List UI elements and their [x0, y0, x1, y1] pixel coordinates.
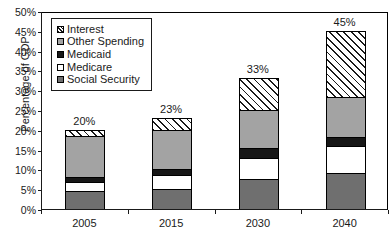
- y-axis-tick-mark: [38, 71, 42, 72]
- bar-group: [239, 13, 279, 209]
- x-axis-tick-mark: [128, 210, 129, 214]
- x-axis-tick-mark: [215, 210, 216, 214]
- legend-item-label: Medicaid: [67, 49, 111, 60]
- bar-segment: [65, 182, 105, 191]
- legend-item[interactable]: Other Spending: [57, 36, 144, 49]
- stacked-bar-chart: Percentage of GDP 0%5%10%15%20%25%30%35%…: [0, 0, 391, 237]
- bar-segment: [239, 148, 279, 157]
- legend-swatch-icon: [57, 76, 64, 83]
- x-axis-category-label: 2015: [131, 217, 211, 230]
- y-axis-tick-mark: [38, 91, 42, 92]
- stacked-bar[interactable]: [326, 31, 366, 209]
- x-axis-tick-mark: [388, 210, 389, 214]
- bar-data-label: 20%: [48, 115, 120, 127]
- y-axis-tick-labels: 0%5%10%15%20%25%30%35%40%45%50%: [0, 0, 36, 237]
- legend-item[interactable]: Interest: [57, 23, 144, 36]
- x-axis-tick-mark: [301, 210, 302, 214]
- y-axis-tick-label: 5%: [2, 185, 36, 195]
- legend-item-label: Other Spending: [67, 36, 144, 47]
- bar-segment: [239, 179, 279, 209]
- legend-swatch-icon: [57, 38, 64, 45]
- bar-segment: [152, 130, 192, 170]
- y-axis-tick-mark: [38, 12, 42, 13]
- y-axis-tick-label: 10%: [2, 165, 36, 175]
- legend-item-label: Interest: [67, 24, 104, 35]
- y-axis-tick-label: 0%: [2, 205, 36, 215]
- y-axis-tick-mark: [38, 111, 42, 112]
- bar-segment: [65, 191, 105, 209]
- legend-item-label: Medicare: [67, 62, 112, 73]
- x-axis-tick-mark: [41, 210, 42, 214]
- bar-data-label: 23%: [135, 103, 207, 115]
- y-axis-tick-mark: [38, 151, 42, 152]
- y-axis-tick-label: 20%: [2, 126, 36, 136]
- legend-item[interactable]: Social Security: [57, 73, 144, 86]
- bar-segment: [326, 137, 366, 146]
- y-axis-tick-label: 40%: [2, 47, 36, 57]
- bar-segment: [239, 110, 279, 148]
- bar-segment: [65, 136, 105, 177]
- y-axis-tick-mark: [38, 170, 42, 171]
- y-axis-tick-mark: [38, 32, 42, 33]
- y-axis-tick-label: 25%: [2, 106, 36, 116]
- legend-item[interactable]: Medicare: [57, 61, 144, 74]
- bar-segment: [326, 97, 366, 137]
- bar-segment: [326, 173, 366, 209]
- legend-swatch-icon: [57, 26, 64, 33]
- x-axis-category-label: 2030: [218, 217, 298, 230]
- y-axis-tick-mark: [38, 52, 42, 53]
- legend-swatch-icon: [57, 64, 64, 71]
- y-axis-tick-label: 15%: [2, 146, 36, 156]
- y-axis-tick-label: 45%: [2, 27, 36, 37]
- bar-segment: [239, 158, 279, 180]
- stacked-bar[interactable]: [239, 78, 279, 209]
- bar-segment: [152, 118, 192, 130]
- y-axis-tick-mark: [38, 131, 42, 132]
- bar-segment: [152, 175, 192, 189]
- legend-item-label: Social Security: [67, 74, 140, 85]
- y-axis-tick-label: 35%: [2, 66, 36, 76]
- legend-item[interactable]: Medicaid: [57, 48, 144, 61]
- stacked-bar[interactable]: [152, 118, 192, 209]
- bar-group: [326, 13, 366, 209]
- y-axis-tick-label: 30%: [2, 86, 36, 96]
- bar-segment: [326, 146, 366, 174]
- y-axis-tick-label: 50%: [2, 7, 36, 17]
- bar-segment: [239, 78, 279, 110]
- bar-segment: [152, 189, 192, 209]
- legend-swatch-icon: [57, 51, 64, 58]
- x-axis-category-label: 2040: [305, 217, 385, 230]
- y-axis-tick-mark: [38, 190, 42, 191]
- bar-segment: [326, 31, 366, 97]
- bar-data-label: 33%: [222, 63, 294, 75]
- stacked-bar[interactable]: [65, 130, 105, 209]
- chart-legend: InterestOther SpendingMedicaidMedicareSo…: [51, 18, 152, 91]
- x-axis-category-label: 2005: [44, 217, 124, 230]
- bar-data-label: 45%: [309, 16, 381, 28]
